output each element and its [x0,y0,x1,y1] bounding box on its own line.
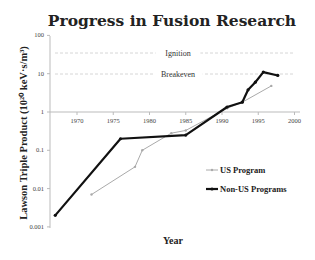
fusion-progress-chart: Progress in Fusion Research Lawson Tripl… [0,0,315,260]
y-axis-label: Lawson Triple Product (10²⁰ keV·s/m³) [18,46,30,220]
y-tick-label: 0.1 [36,146,44,153]
reference-label-ignition: Ignition [165,49,190,58]
y-tick-label: 100 [34,31,44,38]
data-point [134,166,136,168]
data-point [119,137,122,140]
data-series [54,71,280,217]
data-point [241,101,244,104]
y-tick-label: 10 [38,70,45,77]
x-tick-label: 1970 [71,117,84,124]
data-point [270,85,272,87]
x-axis-label: Year [163,235,184,246]
axes: 1001010.10.010.0011970197519801985199019… [29,31,301,230]
chart-title: Progress in Fusion Research [48,11,296,30]
x-tick-label: 1980 [143,117,156,124]
y-tick-label: 0.001 [29,223,44,230]
data-point [170,132,172,134]
x-tick-label: 1990 [216,117,229,124]
y-tick-label: 1 [41,108,44,115]
reference-label-breakeven: Breakeven [161,70,195,79]
data-point [184,133,187,136]
data-point [54,214,57,217]
x-tick-label: 1985 [179,117,192,124]
y-tick-label: 0.01 [33,185,44,192]
data-point [90,193,92,195]
x-tick-label: 1995 [252,117,265,124]
data-point [225,105,228,108]
legend-label-non-us: Non-US Programs [220,184,287,194]
data-point [247,88,250,91]
data-point [276,74,279,77]
data-point [254,81,257,84]
legend-label-us: US Program [220,165,265,175]
reference-lines: IgnitionBreakeven [55,47,295,79]
data-point [185,129,187,131]
legend: US ProgramNon-US Programs [206,165,287,194]
x-tick-label: 1975 [107,117,120,124]
x-tick-label: 2000 [288,117,301,124]
data-point [141,149,143,151]
data-point [262,71,265,74]
